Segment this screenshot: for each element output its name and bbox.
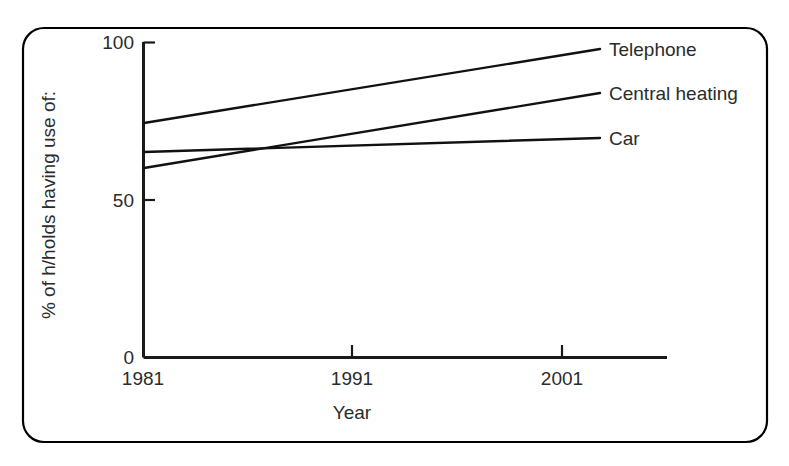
x-tick-label-1991: 1991 — [331, 368, 373, 389]
series-line-central-heating — [144, 93, 600, 168]
y-tick-label-100: 100 — [102, 32, 134, 53]
x-tick-label-1981: 1981 — [122, 368, 164, 389]
line-chart: 100 50 0 1981 1991 2001 Year % of h/hold… — [0, 0, 789, 466]
x-tick-label-2001: 2001 — [541, 368, 583, 389]
y-tick-label-0: 0 — [123, 347, 134, 368]
series-line-car — [144, 138, 600, 152]
series-label-central-heating: Central heating — [609, 83, 738, 104]
series-label-telephone: Telephone — [609, 39, 697, 60]
chart-figure: 100 50 0 1981 1991 2001 Year % of h/hold… — [0, 0, 789, 466]
series-label-car: Car — [609, 128, 640, 149]
y-axis-title: % of h/holds having use of: — [38, 91, 59, 319]
x-axis-title: Year — [333, 402, 372, 423]
y-tick-label-50: 50 — [113, 190, 134, 211]
series-line-telephone — [144, 49, 600, 123]
